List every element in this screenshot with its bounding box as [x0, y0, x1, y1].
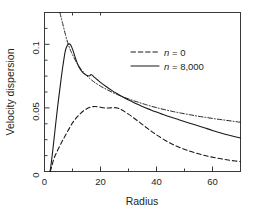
chart-figure: 0 0.05 0.1 0 20 40 60 Velocity dispersio… — [0, 0, 257, 214]
y-tick-label-0: 0 — [30, 172, 41, 177]
legend-eq-n-8000: = — [169, 61, 180, 72]
x-axis-title: Radius — [126, 195, 159, 207]
x-tick-label-40: 40 — [151, 176, 162, 187]
y-tick-label-01: 0.1 — [30, 41, 41, 54]
legend-label-n-8000: n = 8,000 — [164, 61, 204, 72]
x-tick-label-20: 20 — [95, 176, 106, 187]
plot-frame — [45, 13, 241, 172]
velocity-dispersion-chart: 0 0.05 0.1 0 20 40 60 Velocity dispersio… — [0, 0, 257, 214]
curve-reference — [60, 13, 241, 123]
curve-n-0 — [50, 107, 240, 172]
y-tick-label-005: 0.05 — [30, 102, 41, 121]
y-axis-title: Velocity dispersion — [4, 48, 16, 135]
legend-eq-n-0: = — [169, 47, 180, 58]
legend-label-n-0: n = 0 — [164, 47, 185, 58]
x-axis-ticks — [45, 13, 241, 172]
legend-value-n-8000: 8,000 — [180, 61, 204, 72]
legend-value-n-0: 0 — [180, 47, 185, 58]
x-tick-label-0: 0 — [42, 176, 47, 187]
x-tick-label-60: 60 — [207, 176, 218, 187]
chart-legend: n = 0 n = 8,000 — [131, 47, 204, 72]
y-axis-ticks — [45, 13, 50, 172]
curve-n-8000 — [50, 44, 240, 172]
